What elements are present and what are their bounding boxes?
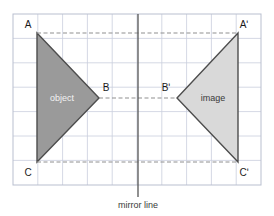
- diagram-canvas: A B C Aʹ Bʹ Cʹ object image mirror line: [0, 0, 274, 216]
- reflection-diagram: A B C Aʹ Bʹ Cʹ object image mirror line: [0, 0, 274, 216]
- object-label: object: [50, 93, 75, 103]
- vertex-label-a: A: [25, 19, 32, 30]
- vertex-label-b-prime: Bʹ: [162, 82, 171, 93]
- vertex-label-a-prime: Aʹ: [240, 19, 249, 30]
- vertex-label-c: C: [24, 167, 31, 178]
- vertex-label-c-prime: Cʹ: [239, 167, 248, 178]
- vertex-label-b: B: [103, 82, 110, 93]
- image-label: image: [201, 93, 226, 103]
- mirror-line-caption: mirror line: [118, 200, 158, 210]
